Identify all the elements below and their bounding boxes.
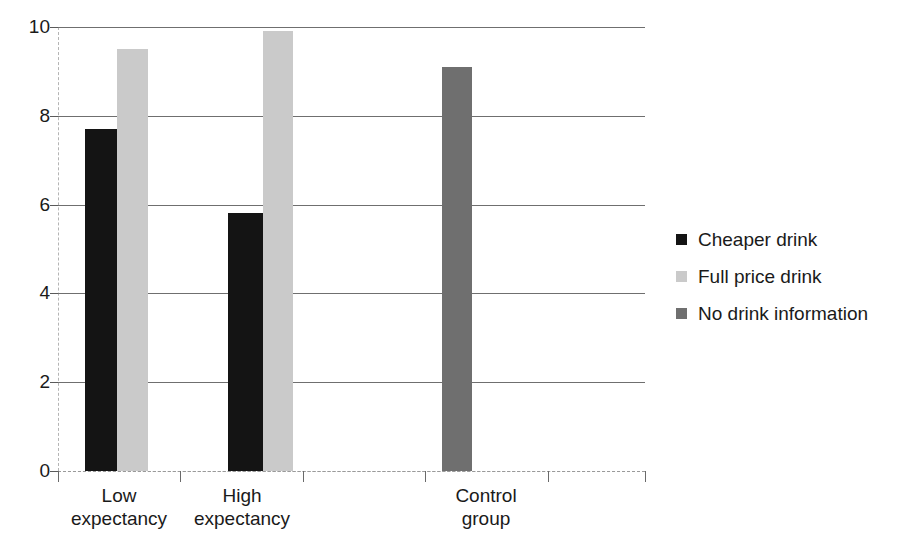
x-tick-3 [425, 471, 426, 482]
y-tick-label-8: 8 [6, 106, 50, 125]
x-category-label-control-group: Control group [406, 484, 566, 530]
legend-item-full-price-drink[interactable]: Full price drink [676, 258, 868, 295]
legend-swatch-no-drink-information [676, 308, 687, 319]
y-tick-label-2: 2 [6, 372, 50, 391]
bar-low-expectancy-full-price-drink [117, 49, 148, 471]
legend-item-cheaper-drink[interactable]: Cheaper drink [676, 221, 868, 258]
x-tick-5 [645, 471, 646, 482]
y-tick-label-0: 0 [6, 461, 50, 480]
legend: Cheaper drinkFull price drinkNo drink in… [676, 221, 868, 332]
bar-chart: 0246810 Low expectancyHigh expectancyCon… [0, 0, 910, 546]
x-tick-1 [180, 471, 181, 482]
bar-high-expectancy-full-price-drink [263, 31, 293, 471]
x-tick-2 [303, 471, 304, 482]
legend-swatch-cheaper-drink [676, 234, 687, 245]
bar-high-expectancy-cheaper-drink [228, 213, 263, 471]
y-tick-label-10: 10 [6, 17, 50, 36]
x-axis-line [58, 471, 645, 472]
legend-label-no-drink-information: No drink information [698, 304, 868, 323]
bar-low-expectancy-cheaper-drink [85, 129, 117, 471]
y-tick-label-4: 4 [6, 283, 50, 302]
legend-swatch-full-price-drink [676, 271, 687, 282]
y-tick-label-6: 6 [6, 195, 50, 214]
gridline-10 [58, 27, 645, 28]
bar-control-group-no-drink-information [442, 67, 472, 471]
x-category-label-high-expectancy: High expectancy [162, 484, 322, 530]
x-tick-4 [548, 471, 549, 482]
plot-area [58, 27, 645, 471]
legend-label-cheaper-drink: Cheaper drink [698, 230, 817, 249]
y-axis-tick-labels: 0246810 [0, 27, 50, 471]
x-tick-0 [58, 471, 59, 482]
legend-label-full-price-drink: Full price drink [698, 267, 822, 286]
legend-item-no-drink-information[interactable]: No drink information [676, 295, 868, 332]
